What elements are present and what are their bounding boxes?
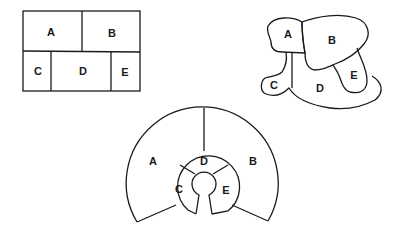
- region-label: D: [200, 155, 208, 167]
- rect-divider: [23, 51, 140, 52]
- blob-region-d: [261, 52, 381, 109]
- radial-partition: A B C D E: [126, 107, 278, 222]
- region-label: B: [108, 27, 116, 39]
- diagram-canvas: A B C D E A B C D E A B C D: [0, 0, 405, 236]
- region-label: C: [34, 65, 42, 77]
- region-label: A: [284, 28, 292, 40]
- region-label: B: [328, 34, 336, 46]
- region-label: E: [222, 184, 229, 196]
- inner-arc: [192, 172, 216, 214]
- middle-arc: [178, 156, 240, 214]
- radial-edge-right: [232, 205, 268, 221]
- region-label: E: [350, 69, 357, 81]
- ring-divider: [213, 165, 228, 174]
- rectangular-partition: A B C D E: [23, 11, 140, 91]
- region-label: A: [47, 26, 55, 38]
- region-label: D: [79, 65, 87, 77]
- blob-partition: A B C D E: [261, 15, 381, 108]
- region-label: C: [175, 183, 183, 195]
- region-label: B: [249, 155, 257, 167]
- region-label: E: [121, 66, 128, 78]
- region-label: D: [316, 82, 324, 94]
- region-label: A: [149, 155, 157, 167]
- region-label: C: [270, 79, 278, 91]
- radial-edge-left: [137, 205, 176, 222]
